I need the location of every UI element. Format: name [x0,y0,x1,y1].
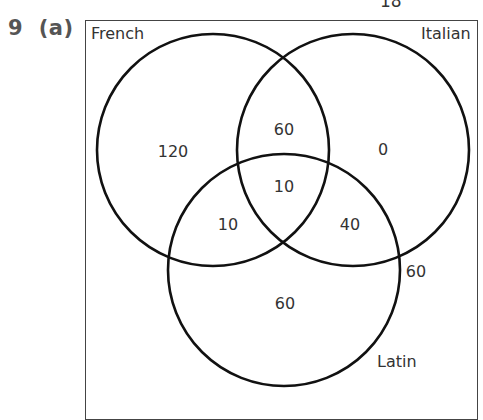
set-label-italian: Italian [421,24,471,43]
region-latin-only: 60 [275,294,295,313]
region-french-only: 120 [158,142,189,161]
set-circle-french [97,34,329,266]
set-label-latin: Latin [377,352,417,371]
set-label-french: French [91,24,144,43]
region-italian-only: 0 [378,140,388,159]
region-none: 60 [406,262,426,281]
region-all-three: 10 [274,177,294,196]
region-french-italian: 60 [274,120,294,139]
region-italian-latin: 40 [340,215,360,234]
region-french-latin: 10 [218,215,238,234]
